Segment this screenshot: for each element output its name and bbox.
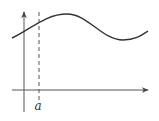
graph-svg: [0, 0, 159, 121]
graph-figure: a: [0, 0, 159, 121]
function-curve: [12, 14, 148, 40]
label-a: a: [34, 100, 41, 112]
